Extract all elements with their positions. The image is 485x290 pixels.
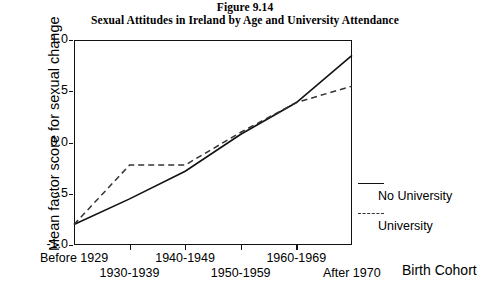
dashed-line-icon <box>358 213 384 214</box>
chart-page: Figure 9.14 Sexual Attitudes in Ireland … <box>0 0 485 290</box>
legend: No University University <box>358 178 483 238</box>
x-tick-label: Before 1929 <box>40 251 108 265</box>
y-tick-label: .5 <box>34 84 68 96</box>
page-title: Sexual Attitudes in Ireland by Age and U… <box>55 14 435 27</box>
figure-title-block: Figure 9.14 Sexual Attitudes in Ireland … <box>55 1 435 27</box>
legend-label-university: University <box>378 219 433 233</box>
x-tick-label: 1960-1969 <box>266 251 326 265</box>
x-tick-label: 1940-1949 <box>155 251 215 265</box>
x-tick-mark <box>130 245 131 250</box>
x-tick-label: After 1970 <box>323 266 381 280</box>
y-tick-label: -.5 <box>34 187 68 199</box>
figure-number: Figure 9.14 <box>55 1 435 14</box>
x-tick-mark <box>185 245 186 250</box>
series-line-university <box>74 86 352 224</box>
y-tick-mark <box>69 245 73 246</box>
x-tick-label: 1930-1939 <box>100 266 160 280</box>
x-tick-label: 1950-1959 <box>211 266 271 280</box>
y-tick-label: -1.0 <box>34 238 68 250</box>
legend-entry-no-university[interactable]: No University <box>358 178 483 208</box>
y-tick-mark <box>69 40 73 41</box>
plot-area <box>74 40 352 245</box>
x-axis-title: Birth Cohort <box>402 262 477 278</box>
y-tick-mark <box>69 91 73 92</box>
series-line-no-university <box>74 55 352 224</box>
y-tick-label: 0.0 <box>34 136 68 148</box>
y-tick-mark <box>69 143 73 144</box>
legend-label-no-university: No University <box>378 189 452 203</box>
legend-entry-university[interactable]: University <box>358 208 483 238</box>
y-tick-mark <box>69 194 73 195</box>
solid-line-icon <box>358 183 384 184</box>
x-tick-mark <box>296 245 297 250</box>
y-tick-label: 1.0 <box>34 33 68 45</box>
x-tick-mark <box>241 245 242 250</box>
